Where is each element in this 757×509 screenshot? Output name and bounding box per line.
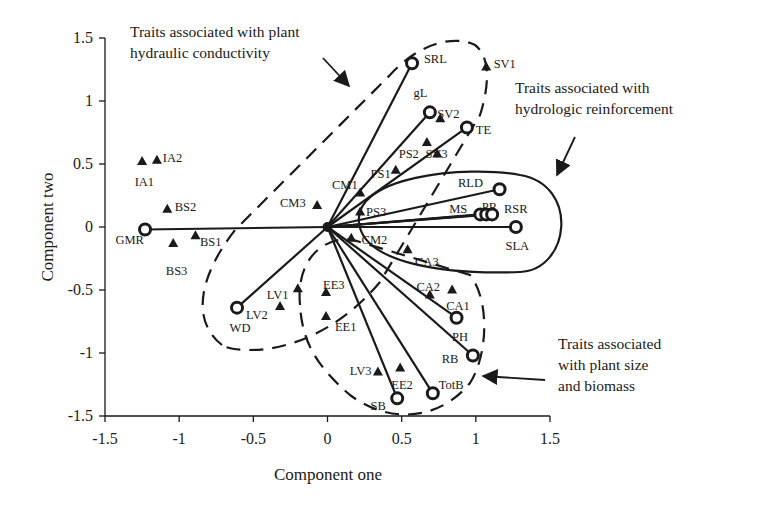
x-axis-title: Component one: [274, 465, 382, 484]
point-label: BS1: [200, 235, 222, 249]
point-label: GMR: [115, 233, 144, 247]
triangle-marker: [355, 206, 365, 215]
trait-marker: [407, 58, 418, 69]
trait-marker: [461, 122, 472, 133]
triangle-marker: [481, 61, 491, 70]
x-tick-label: -0.5: [241, 430, 266, 447]
triangle-marker: [168, 238, 178, 247]
point-label: SRL: [424, 52, 447, 66]
trait-marker: [451, 312, 462, 323]
x-tick-label: -1.5: [92, 430, 117, 447]
x-axis-ticks: -1.5-1-0.500.511.5: [92, 416, 560, 447]
x-tick-label: 0: [324, 430, 332, 447]
point-label: RSR: [504, 202, 528, 216]
triangle-marker: [391, 165, 401, 174]
point-label: SV3: [425, 147, 447, 161]
point-label: RLD: [458, 176, 483, 190]
triangle-marker: [395, 363, 405, 372]
point-label: CA3: [415, 255, 439, 269]
plant-size-biomass-annotation: Traits associatedwith plant sizeand biom…: [558, 335, 661, 394]
point-label: LV2: [246, 308, 268, 322]
point-label: LV3: [350, 364, 372, 378]
arrow-icon: [557, 137, 575, 175]
trait-marker: [467, 350, 478, 361]
x-tick-label: -1: [173, 430, 186, 447]
x-tick-label: 1: [472, 430, 480, 447]
point-label: EE1: [335, 320, 357, 334]
point-label: TE: [476, 123, 492, 137]
triangle-marker: [312, 200, 322, 209]
arrow-icon: [323, 58, 349, 86]
point-label: EE2: [391, 378, 413, 392]
triangle-marker: [321, 311, 331, 320]
triangle-marker: [275, 301, 285, 310]
triangle-marker: [152, 155, 162, 164]
point-label: BS2: [175, 200, 197, 214]
point-label: IA2: [163, 151, 182, 165]
y-axis-title: Component two: [38, 172, 57, 281]
y-tick-label: 0.5: [73, 155, 93, 172]
y-tick-label: -0.5: [68, 281, 93, 298]
triangle-marker: [447, 285, 457, 294]
point-label: gL: [414, 86, 428, 100]
point-label: CM2: [362, 233, 388, 247]
triangle-marker: [346, 233, 356, 242]
point-label: TotB: [439, 378, 464, 392]
point-label: CA1: [446, 299, 470, 313]
trait-marker: [510, 222, 521, 233]
y-axis-ticks: -1.5-1-0.500.511.5: [68, 29, 105, 424]
hydraulic-conductivity-annotation: Traits associated with planthydraulic co…: [130, 23, 300, 61]
arrow-icon: [483, 376, 545, 380]
x-tick-label: 1.5: [540, 430, 560, 447]
point-label: PH: [452, 330, 468, 344]
hydrologic-reinforcement-annotation: Traits associated withhydrologic reinfor…: [515, 79, 674, 117]
trait-marker: [392, 393, 403, 404]
point-label: SLA: [506, 239, 530, 253]
x-tick-label: 0.5: [392, 430, 412, 447]
point-label: BS3: [166, 264, 188, 278]
point-label: EE3: [323, 278, 345, 292]
point-label: WD: [230, 321, 251, 335]
y-tick-label: -1: [80, 344, 93, 361]
point-label: CM1: [332, 178, 358, 192]
point-label: LV1: [267, 288, 289, 302]
triangle-marker: [162, 204, 172, 213]
point-label: PS2: [399, 147, 419, 161]
triangle-marker: [403, 244, 413, 253]
triangle-marker: [373, 366, 383, 375]
y-tick-label: 1.5: [73, 29, 93, 46]
triangle-marker: [422, 137, 432, 146]
point-label: MS: [449, 202, 467, 216]
trait-marker: [494, 184, 505, 195]
trait-marker: [232, 302, 243, 313]
triangle-marker: [293, 283, 303, 292]
point-label: IA1: [135, 175, 154, 189]
trait-marker: [427, 388, 438, 399]
triangle-marker: [137, 156, 147, 165]
y-tick-label: 0: [85, 218, 93, 235]
point-label: PS1: [371, 167, 391, 181]
point-label: RB: [442, 352, 459, 366]
y-tick-label: -1.5: [68, 407, 93, 424]
origin-marker: [323, 222, 333, 232]
trait-marker: [487, 209, 498, 220]
loading-vector: [145, 227, 327, 230]
point-label: SV2: [437, 107, 459, 121]
annotations: Traits associated with planthydraulic co…: [130, 23, 674, 394]
pca-biplot: -1.5-1-0.500.511.5 -1.5-1-0.500.511.5 Co…: [0, 0, 757, 509]
point-label: SB: [371, 399, 386, 413]
point-label: PS3: [366, 205, 386, 219]
trait-marker: [424, 107, 435, 118]
point-label: CM3: [280, 196, 306, 210]
point-label: CA2: [417, 280, 441, 294]
y-tick-label: 1: [85, 92, 93, 109]
point-label: SV1: [494, 57, 516, 71]
